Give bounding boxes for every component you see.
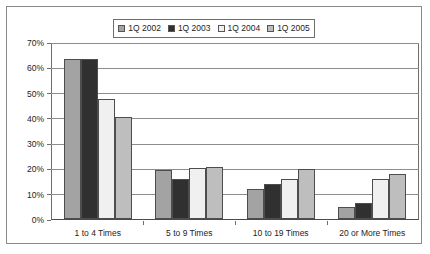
y-axis-label: 0%: [32, 215, 44, 225]
bar[interactable]: [189, 168, 206, 219]
x-axis-tick: [143, 221, 144, 225]
y-axis-label: 50%: [27, 89, 44, 99]
bar[interactable]: [98, 99, 115, 219]
y-axis-label: 70%: [27, 38, 44, 48]
legend-swatch-icon-1q-2005: [267, 25, 274, 32]
legend-label-1q-2004: 1Q 2004: [228, 24, 261, 33]
bar[interactable]: [338, 207, 355, 220]
bar-group: [235, 44, 327, 219]
bar[interactable]: [64, 59, 81, 219]
y-axis-label: 20%: [27, 164, 44, 174]
bar[interactable]: [115, 117, 132, 220]
bar[interactable]: [172, 179, 189, 219]
x-axis-category-label: 5 to 9 Times: [144, 228, 236, 238]
legend-swatch-icon-1q-2004: [218, 25, 225, 32]
bar[interactable]: [264, 184, 281, 219]
x-axis-tick: [327, 221, 328, 225]
y-axis-label: 40%: [27, 114, 44, 124]
y-axis-tick: [47, 43, 51, 44]
bar[interactable]: [281, 179, 298, 219]
x-axis: 1 to 4 Times5 to 9 Times10 to 19 Times20…: [51, 221, 419, 243]
x-axis-category-label: 10 to 19 Times: [235, 228, 327, 238]
chart-frame: 1Q 2002 1Q 2003 1Q 2004 1Q 2005 0%10%20%…: [6, 6, 422, 244]
bar[interactable]: [298, 169, 315, 219]
legend-box: 1Q 2002 1Q 2003 1Q 2004 1Q 2005: [113, 19, 315, 38]
bar[interactable]: [389, 174, 406, 219]
x-axis-tick: [235, 221, 236, 225]
bar[interactable]: [355, 203, 372, 219]
y-axis-tick: [47, 194, 51, 195]
legend-entry-1q-2005[interactable]: 1Q 2005: [267, 24, 310, 33]
y-axis-tick: [47, 144, 51, 145]
legend-label-1q-2005: 1Q 2005: [277, 24, 310, 33]
plot-wrap: 0%10%20%30%40%50%60%70%: [51, 43, 419, 220]
legend-entry-1q-2004[interactable]: 1Q 2004: [218, 24, 261, 33]
bar-group: [52, 44, 144, 219]
bar[interactable]: [155, 170, 172, 219]
bar[interactable]: [81, 59, 98, 219]
legend-swatch-icon-1q-2003: [168, 25, 175, 32]
y-axis-tick: [47, 68, 51, 69]
y-axis-label: 30%: [27, 139, 44, 149]
bar[interactable]: [372, 179, 389, 219]
x-axis-category-label: 20 or More Times: [327, 228, 419, 238]
legend-swatch-icon-1q-2002: [118, 25, 125, 32]
legend-entry-1q-2003[interactable]: 1Q 2003: [168, 24, 211, 33]
legend-label-1q-2003: 1Q 2003: [178, 24, 211, 33]
y-axis-tick: [47, 169, 51, 170]
bar-group: [144, 44, 236, 219]
legend-entry-1q-2002[interactable]: 1Q 2002: [118, 24, 161, 33]
x-axis-category-label: 1 to 4 Times: [52, 228, 144, 238]
y-axis-label: 10%: [27, 190, 44, 200]
legend-label-1q-2002: 1Q 2002: [128, 24, 161, 33]
bar[interactable]: [206, 167, 223, 220]
bars-layer: [52, 44, 418, 219]
chart-legend: 1Q 2002 1Q 2003 1Q 2004 1Q 2005: [7, 19, 421, 38]
y-axis-label: 60%: [27, 63, 44, 73]
y-axis-tick: [47, 118, 51, 119]
bar[interactable]: [247, 189, 264, 219]
x-axis-labels: 1 to 4 Times5 to 9 Times10 to 19 Times20…: [52, 228, 418, 238]
bar-group: [327, 44, 419, 219]
y-axis-tick: [47, 93, 51, 94]
